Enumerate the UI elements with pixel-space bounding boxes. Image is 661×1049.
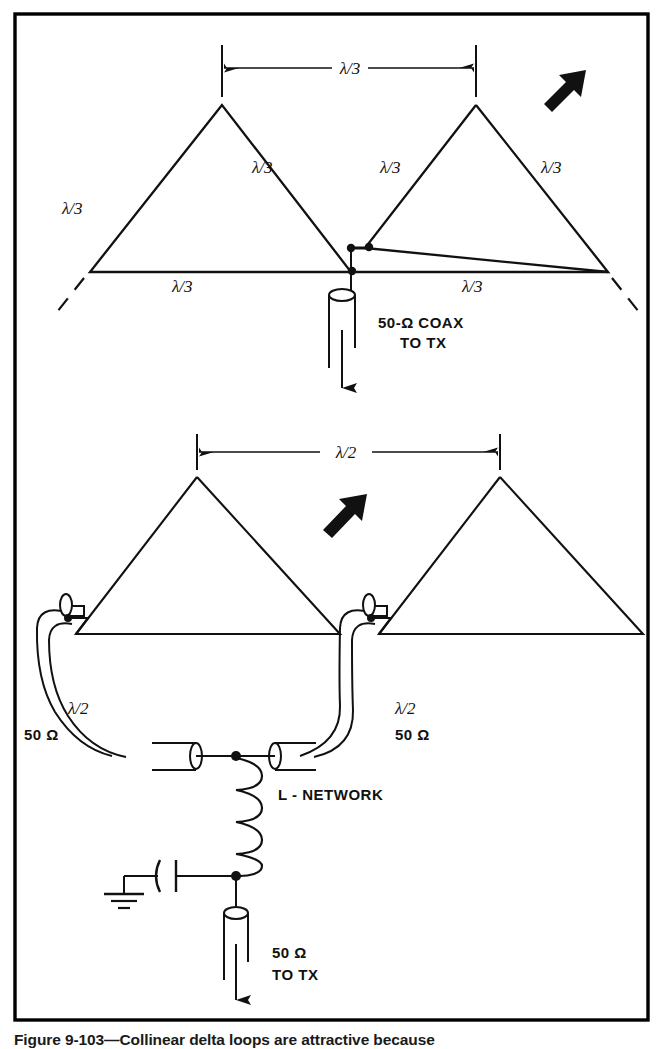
- top-feed-node-left: [347, 244, 355, 252]
- top-feed-node-base: [348, 267, 356, 275]
- right-phasing-label-lambda: λ/2: [394, 699, 416, 718]
- top-left-base-label: λ/3: [171, 277, 193, 296]
- left-phasing-label-lambda: λ/2: [67, 699, 89, 718]
- l-network-label: L - NETWORK: [278, 786, 383, 803]
- top-feed-node-right: [365, 243, 373, 251]
- bottom-feed-label-line2: TO TX: [272, 966, 318, 983]
- bottom-feed-label-line1: 50 Ω: [272, 944, 307, 961]
- right-phasing-label-impedance: 50 Ω: [395, 726, 430, 743]
- top-left-side-label: λ/3: [61, 199, 83, 218]
- top-right-inner-side-label: λ/3: [379, 158, 401, 177]
- bottom-dimension-label: λ/2: [335, 443, 357, 462]
- top-right-base-label: λ/3: [461, 277, 483, 296]
- top-left-inner-side-label: λ/3: [251, 158, 273, 177]
- right-coax-connector-cap: [363, 594, 375, 616]
- coax-end-cap: [329, 289, 355, 301]
- top-feed-label-line2: TO TX: [400, 334, 446, 351]
- figure-caption: Figure 9-103—Collinear delta loops are a…: [14, 1031, 654, 1049]
- left-coax-connector-cap: [60, 594, 72, 616]
- antenna-figure: λ/3 λ/3 λ/3: [0, 0, 661, 1049]
- top-feed-label-line1: 50-Ω COAX: [378, 314, 464, 331]
- bottom-coax-end-cap: [224, 907, 248, 919]
- left-phasing-label-impedance: 50 Ω: [24, 726, 59, 743]
- figure-canvas: λ/3 λ/3 λ/3: [0, 0, 661, 1049]
- top-dimension-label: λ/3: [339, 59, 361, 78]
- top-right-side-label: λ/3: [540, 158, 562, 177]
